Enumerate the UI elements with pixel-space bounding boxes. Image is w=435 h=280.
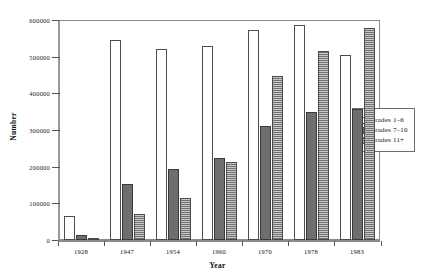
x-axis-tick-label: 1960 [212, 248, 226, 255]
bar-1983-series-2 [352, 109, 363, 240]
x-axis-tick [242, 241, 243, 246]
x-axis-tick [104, 241, 105, 246]
bar-1983-series-1 [340, 55, 351, 240]
x-axis-tick [288, 241, 289, 246]
y-axis-tick [52, 20, 60, 21]
bar-1960-series-3 [226, 162, 237, 240]
bar-1970-series-3 [272, 76, 283, 240]
legend-label: Grades 11+ [370, 136, 404, 144]
y-axis-tick [52, 130, 60, 131]
bar-1928-series-1 [64, 216, 75, 240]
x-axis-tick-label: 1947 [120, 248, 134, 255]
x-axis-tick-label: 1970 [258, 248, 272, 255]
y-axis-tick-label: 0 [47, 237, 50, 244]
bar-1970-series-2 [260, 126, 271, 240]
bar-1928-series-2 [76, 235, 87, 240]
y-axis-tick [52, 203, 60, 204]
bar-1978-series-2 [306, 112, 317, 240]
bar-1960-series-2 [214, 158, 225, 241]
y-axis-tick [52, 93, 60, 94]
bars-layer [58, 20, 380, 240]
x-axis-line [58, 240, 380, 242]
bar-1954-series-2 [168, 169, 179, 240]
bar-1978-series-1 [294, 25, 305, 240]
y-axis-tick-label: 600000 [29, 17, 50, 24]
bar-chart: 0100000200000300000400000500000600000 Nu… [0, 0, 435, 280]
bar-1983-series-3 [364, 28, 375, 240]
x-axis-tick [381, 241, 382, 246]
x-axis-tick-label: 1983 [350, 248, 364, 255]
legend-label: Grades 1–6 [370, 116, 404, 124]
x-axis-tick [196, 241, 197, 246]
bar-1960-series-1 [202, 46, 213, 240]
x-axis-tick-label: 1954 [166, 248, 180, 255]
bar-1947-series-2 [122, 184, 133, 240]
bar-1970-series-1 [248, 30, 259, 240]
x-axis-tick-label: 1978 [304, 248, 318, 255]
bar-1928-series-3 [88, 238, 99, 240]
y-axis-tick-labels: 0100000200000300000400000500000600000 [0, 0, 50, 280]
y-axis-tick-label: 500000 [29, 53, 50, 60]
bar-1954-series-3 [180, 198, 191, 240]
bar-1947-series-3 [134, 214, 145, 240]
bar-1978-series-3 [318, 51, 329, 240]
x-axis-tick [150, 241, 151, 246]
y-axis-tick-label: 200000 [29, 163, 50, 170]
y-axis-title: Number [9, 97, 18, 157]
bar-1947-series-1 [110, 40, 121, 240]
x-axis-tick [58, 241, 59, 246]
y-axis-tick [52, 167, 60, 168]
x-axis-tick-label: 1928 [74, 248, 88, 255]
y-axis-tick [52, 57, 60, 58]
y-axis-tick-label: 100000 [29, 200, 50, 207]
y-axis-tick-label: 300000 [29, 127, 50, 134]
x-axis-title: Year [0, 261, 435, 270]
y-axis-tick-label: 400000 [29, 90, 50, 97]
legend-label: Grades 7–10 [370, 126, 408, 134]
bar-1954-series-1 [156, 49, 167, 240]
x-axis-tick [334, 241, 335, 246]
